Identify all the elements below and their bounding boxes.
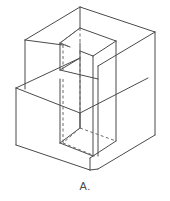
- through-prism-bottom-face: [60, 128, 116, 156]
- isometric-solid-figure: [0, 0, 170, 178]
- through-prism-top-face: [60, 28, 116, 56]
- main-block-vertical-edges: [25, 7, 155, 135]
- main-block-top-face: [25, 7, 155, 66]
- step-notch-top-face: [16, 58, 148, 113]
- step-notch-front-faces: [16, 88, 98, 170]
- figure-panel: A.: [0, 0, 170, 201]
- main-block-right-face: [90, 66, 155, 169]
- figure-caption-label: A.: [0, 178, 170, 201]
